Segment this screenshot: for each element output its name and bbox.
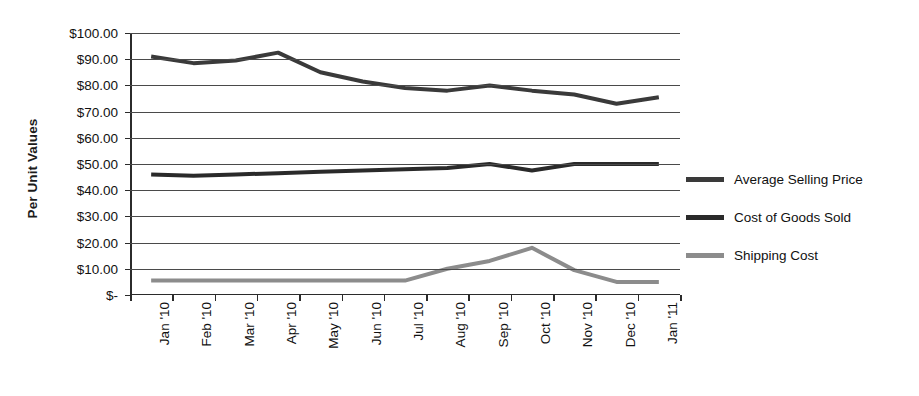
x-axis-tick-label: Mar '10 xyxy=(242,300,257,390)
x-axis-tick xyxy=(680,295,682,301)
y-axis-tick-label: $100.00 xyxy=(69,26,118,41)
x-axis-tick-label: Jan '11 xyxy=(665,300,680,390)
y-axis-title: Per Unit Values xyxy=(22,58,44,278)
y-axis-tick-label: $70.00 xyxy=(77,104,118,119)
x-axis-tick-label: Jun '10 xyxy=(369,300,384,390)
grid-line xyxy=(130,138,680,139)
chart-legend: Average Selling PriceCost of Goods SoldS… xyxy=(686,160,863,274)
y-axis-tick xyxy=(125,164,130,165)
x-axis-tick-label: Dec '10 xyxy=(623,300,638,390)
y-axis-tick xyxy=(125,85,130,86)
grid-line xyxy=(130,85,680,86)
legend-color-swatch xyxy=(686,215,724,220)
y-axis-tick xyxy=(125,243,130,244)
grid-line xyxy=(130,190,680,191)
x-axis-tick-label: Sep '10 xyxy=(496,300,511,390)
y-axis-tick-label: $30.00 xyxy=(77,209,118,224)
series-line xyxy=(151,248,659,282)
x-axis-tick-label: Nov '10 xyxy=(580,300,595,390)
x-axis-tick-label: Aug '10 xyxy=(453,300,468,390)
grid-line xyxy=(130,216,680,217)
y-axis-tick-label: $- xyxy=(106,288,118,303)
y-axis-tick-label: $40.00 xyxy=(77,183,118,198)
y-axis-tick-label: $80.00 xyxy=(77,78,118,93)
x-axis-tick-label: Oct '10 xyxy=(538,300,553,390)
grid-line xyxy=(130,33,680,34)
y-axis-tick-label: $90.00 xyxy=(77,52,118,67)
legend-item[interactable]: Cost of Goods Sold xyxy=(686,198,863,236)
chart-container: Per Unit Values $100.00$90.00$80.00$70.0… xyxy=(0,0,919,396)
y-axis-tick-labels: $100.00$90.00$80.00$70.00$60.00$50.00$40… xyxy=(46,33,124,295)
y-axis-tick xyxy=(125,33,130,34)
plot-area xyxy=(130,33,680,295)
series-line xyxy=(151,164,659,176)
legend-label: Cost of Goods Sold xyxy=(734,210,851,225)
y-axis-tick-label: $60.00 xyxy=(77,130,118,145)
y-axis-title-label: Per Unit Values xyxy=(26,118,41,218)
y-axis-tick-label: $20.00 xyxy=(77,235,118,250)
x-axis-tick-label: Jan '10 xyxy=(157,300,172,390)
grid-line xyxy=(130,59,680,60)
legend-label: Average Selling Price xyxy=(734,172,863,187)
legend-color-swatch xyxy=(686,177,724,182)
x-axis-tick-label: Jul '10 xyxy=(411,300,426,390)
legend-label: Shipping Cost xyxy=(734,248,818,263)
y-axis-tick-label: $10.00 xyxy=(77,261,118,276)
y-axis-tick xyxy=(125,138,130,139)
legend-item[interactable]: Average Selling Price xyxy=(686,160,863,198)
x-axis-tick-labels: Jan '10Feb '10Mar '10Apr '10May '10Jun '… xyxy=(130,296,680,396)
y-axis-tick-label: $50.00 xyxy=(77,157,118,172)
x-axis-tick-label: May '10 xyxy=(326,300,341,390)
y-axis-tick xyxy=(125,112,130,113)
y-axis-tick xyxy=(125,190,130,191)
grid-line xyxy=(130,164,680,165)
grid-line xyxy=(130,243,680,244)
series-line xyxy=(151,53,659,104)
y-axis-tick xyxy=(125,269,130,270)
grid-line xyxy=(130,112,680,113)
x-axis-tick-label: Feb '10 xyxy=(199,300,214,390)
y-axis-tick xyxy=(125,59,130,60)
legend-color-swatch xyxy=(686,253,724,258)
y-axis-tick xyxy=(125,216,130,217)
grid-line xyxy=(130,269,680,270)
x-axis-tick-label: Apr '10 xyxy=(284,300,299,390)
legend-item[interactable]: Shipping Cost xyxy=(686,236,863,274)
